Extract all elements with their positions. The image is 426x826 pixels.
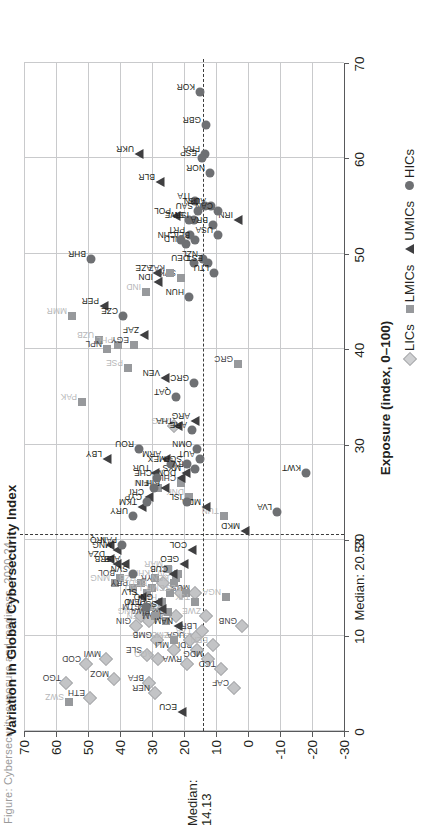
data-point-lmic (68, 312, 76, 320)
y-tick-label: 10 (209, 740, 224, 780)
data-point-hic (210, 268, 219, 277)
data-point-umic (240, 526, 249, 536)
point-label: PSE (106, 358, 123, 368)
point-label: ZAF (123, 325, 139, 335)
point-label: SWZ (45, 692, 64, 702)
point-label: QAT (154, 387, 171, 397)
data-point-hic (184, 292, 193, 301)
data-point-umic (135, 149, 144, 159)
data-point-umic (181, 468, 190, 478)
data-point-umic (103, 454, 112, 464)
data-point-umic (157, 604, 166, 614)
point-label: PAN (100, 535, 117, 545)
point-label: URY (110, 506, 128, 516)
data-point-lmic (222, 593, 230, 601)
point-label: ECU (159, 702, 177, 712)
legend-label: UMICs (402, 201, 417, 241)
point-label: SVN (110, 564, 128, 574)
data-point-hic (141, 602, 150, 611)
point-label: FIN (135, 478, 149, 488)
data-point-hic (87, 254, 96, 263)
x-tick-label: 10 (352, 629, 367, 644)
x-tick-label: 30 (352, 438, 367, 453)
legend-label: LICs (402, 324, 417, 351)
point-label: KWT (282, 463, 301, 473)
legend-item-lic: LICs (402, 324, 417, 364)
data-point-lmic (78, 398, 86, 406)
x-tick-label: 40 (352, 343, 367, 358)
y-tick-label: 30 (145, 740, 160, 780)
point-label: MDG (183, 649, 203, 659)
point-label: GMB (132, 630, 151, 640)
data-point-lmic (166, 269, 174, 277)
data-point-umic (178, 707, 187, 717)
x-tickmark (344, 636, 349, 637)
point-label: PER (81, 296, 99, 306)
point-label: CZE (101, 306, 118, 316)
median-exposure-line (20, 534, 344, 535)
legend-item-hic: HICs (402, 149, 417, 190)
point-label: MNG (90, 573, 110, 583)
data-point-lmic (103, 345, 111, 353)
point-label: GRC (170, 373, 189, 383)
data-point-umic (188, 545, 197, 555)
point-label: MOZ (90, 669, 109, 679)
x-tickmark (344, 158, 349, 159)
y-gridline (280, 63, 281, 731)
point-label: ROU (115, 440, 134, 450)
data-point-umic (234, 215, 243, 225)
data-point-hic (128, 512, 137, 521)
data-point-hic (189, 378, 198, 387)
y-tick-label: 60 (49, 740, 64, 780)
data-point-hic (117, 540, 126, 549)
data-point-lmic (220, 512, 228, 520)
data-point-hic (196, 87, 205, 96)
point-label: NGA (202, 587, 220, 597)
median-x-label: Median: 20.53 (352, 538, 367, 620)
data-point-umic (154, 278, 163, 288)
y-tickmark (56, 732, 57, 737)
y-tick-label: -20 (305, 740, 320, 780)
y-tickmark (280, 732, 281, 737)
data-point-umic (180, 559, 189, 569)
data-point-umic (168, 569, 177, 579)
point-label: COL (169, 540, 187, 550)
legend-item-lmic: LMICs (402, 265, 417, 314)
x-tick-label: 60 (352, 152, 367, 167)
y-gridline (120, 63, 121, 731)
x-axis-label: Exposure (index, 0–100) (378, 321, 393, 476)
y-gridline (24, 63, 25, 731)
y-tick-label: 40 (113, 740, 128, 780)
y-tickmark (184, 732, 185, 737)
data-point-lic (180, 657, 194, 671)
point-label: ISL (169, 492, 182, 502)
y-tickmark (344, 732, 345, 737)
point-label: EST (186, 253, 203, 263)
y-gridline (248, 63, 249, 731)
data-point-hic (149, 483, 158, 492)
point-label: PAK (60, 392, 76, 402)
point-label: ZMB (151, 630, 169, 640)
point-label: BHR (68, 249, 86, 259)
data-point-hic (152, 474, 161, 483)
point-label: TGO (42, 673, 60, 683)
y-tick-label: -30 (337, 740, 352, 780)
data-point-hic (205, 168, 214, 177)
y-tick-label: 50 (81, 740, 96, 780)
data-point-hic (128, 569, 137, 578)
legend-marker-lmic-icon (406, 305, 414, 313)
point-label: NER (132, 683, 150, 693)
x-tick-label: 50 (352, 247, 367, 262)
data-point-hic (213, 230, 222, 239)
point-label: TTO (124, 597, 141, 607)
point-label: GRC (214, 354, 233, 364)
x-tickmark (344, 254, 349, 255)
point-label: EGY (111, 335, 129, 345)
data-point-hic (143, 497, 152, 506)
point-label: UKR (116, 144, 134, 154)
data-point-hic (172, 393, 181, 402)
point-label: ETH (68, 688, 85, 698)
point-label: LBR (180, 621, 197, 631)
